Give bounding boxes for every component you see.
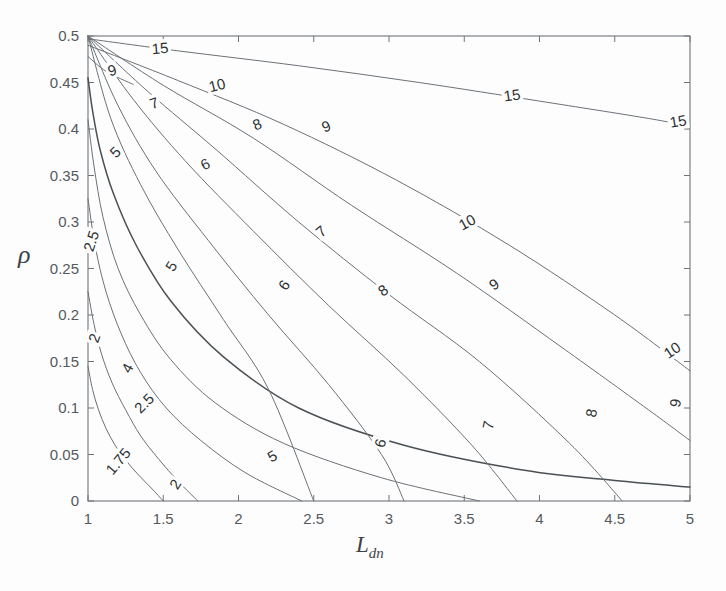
y-tick-label: 0.15 [50, 353, 79, 370]
contour-label-15: 15 [666, 110, 689, 130]
y-tick-label: 0.3 [58, 213, 79, 230]
y-tick-label: 0.05 [50, 446, 79, 463]
y-tick-label: 0.1 [58, 399, 79, 416]
y-tick-label: 0 [71, 492, 79, 509]
contour-line-5 [88, 78, 690, 487]
y-tick-label: 0.35 [50, 167, 79, 184]
contour-label-15: 15 [149, 39, 171, 58]
contour-plot-figure: 00.050.10.150.20.250.30.350.40.450.5 11.… [0, 0, 726, 591]
y-tick-label: 0.25 [50, 260, 79, 277]
x-tick-label: 1 [68, 510, 108, 527]
x-tick-label: 2.5 [294, 510, 334, 527]
contour-label-8: 8 [581, 405, 600, 420]
x-axis-title-subscript: dn [369, 545, 384, 561]
x-tick-label: 3 [369, 510, 409, 527]
contour-line-15 [88, 39, 690, 126]
y-tick-label: 0.5 [58, 27, 79, 44]
contour-line-9 [88, 36, 690, 441]
x-tick-label: 5 [670, 510, 710, 527]
contour-line-5-upper [88, 36, 314, 501]
y-tick-label: 0.45 [50, 74, 79, 91]
x-tick-label: 4 [520, 510, 560, 527]
x-tick-label: 3.5 [444, 510, 484, 527]
contour-line-1.75 [88, 366, 163, 501]
y-axis-title: ρ [18, 240, 30, 270]
contour-label-15: 15 [501, 85, 524, 105]
x-tick-label: 2 [219, 510, 259, 527]
x-tick-label: 4.5 [595, 510, 635, 527]
x-tick-label: 1.5 [143, 510, 183, 527]
x-axis-title: Ldn [356, 532, 384, 562]
x-axis-title-main: L [356, 532, 369, 557]
plot-canvas [0, 0, 726, 591]
y-tick-label: 0.4 [58, 120, 79, 137]
y-tick-label: 0.2 [58, 306, 79, 323]
